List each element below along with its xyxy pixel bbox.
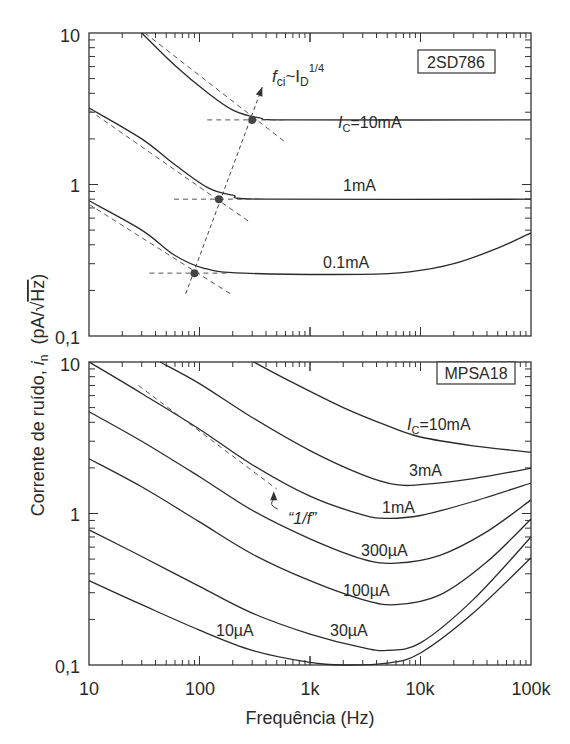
noise-curve: [142, 33, 531, 120]
curve-label-300ua: 300µA: [361, 542, 408, 559]
curve-label-10ua: 10µA: [216, 622, 254, 639]
top-ytick-0.1: 0,1: [55, 328, 80, 348]
noise-curve: [89, 459, 531, 605]
bottom-panel-mpsa18: “1/f” MPSA18 IC=10mA 3mA 1mA 300µA 100µA…: [55, 355, 552, 728]
one-over-f-pointer: [272, 499, 278, 509]
arrow-head-icon: [256, 87, 263, 97]
xtick-100k: 100k: [511, 679, 551, 699]
noise-curve: [89, 108, 531, 199]
bottom-ytick-1: 1: [70, 505, 80, 525]
noise-current-chart: fci~ID1/4 2SD786 IC=10mA 1mA 0.1mA 10 1 …: [0, 0, 570, 744]
top-axis-ticks: [89, 33, 531, 336]
xtick-1k: 1k: [300, 679, 320, 699]
curve-label-1ma-top: 1mA: [343, 177, 376, 194]
arrow-head-icon: [270, 491, 277, 500]
noise-curve: [89, 530, 531, 651]
device-label-mpsa18: MPSA18: [444, 365, 507, 382]
noise-curve: [89, 412, 531, 564]
one-over-f-asymptote: [138, 385, 276, 489]
curve-label-10ma-top: IC=10mA: [338, 114, 402, 134]
one-over-f-label: “1/f”: [288, 510, 317, 527]
top-ytick-1: 1: [70, 176, 80, 196]
curve-label-3ma: 3mA: [409, 462, 442, 479]
bottom-ytick-10: 10: [60, 355, 80, 375]
xtick-10k: 10k: [405, 679, 435, 699]
corner-dot: [215, 195, 223, 203]
curve-label-10ma: IC=10mA: [407, 416, 471, 436]
curve-label-0.1ma-top: 0.1mA: [323, 254, 370, 271]
noise-curve: [89, 558, 531, 665]
top-plot-frame: [89, 33, 531, 336]
noise-curve: [89, 201, 531, 275]
xtick-10: 10: [79, 679, 99, 699]
curve-label-100ua: 100µA: [343, 582, 390, 599]
x-axis-label: Frequência (Hz): [245, 708, 374, 728]
top-asymptotes: [89, 33, 287, 294]
y-axis-label: Corrente de ruído, in (pA/√Hz): [28, 274, 51, 517]
xtick-100: 100: [185, 679, 215, 699]
corner-dot: [190, 269, 198, 277]
bottom-ytick-0.1: 0,1: [55, 657, 80, 677]
fci-annotation: fci~ID1/4: [272, 62, 324, 89]
top-ytick-10: 10: [60, 26, 80, 46]
curve-label-30ua: 30µA: [330, 622, 368, 639]
curve-label-1ma: 1mA: [382, 499, 415, 516]
corner-frequency-trend-arrow: [186, 87, 263, 294]
top-panel-2sd786: fci~ID1/4 2SD786 IC=10mA 1mA 0.1mA 10 1 …: [55, 26, 531, 348]
device-label-2sd786: 2SD786: [427, 54, 485, 71]
